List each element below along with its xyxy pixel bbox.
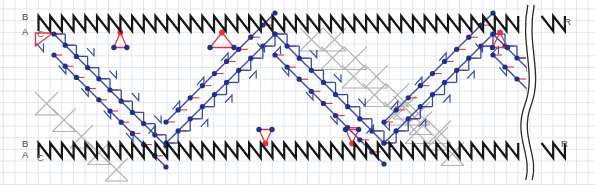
figure-strip-billiard: B A C B A C R R: [0, 0, 595, 185]
label-c-bottom: C: [37, 153, 44, 163]
label-b-top: B: [22, 12, 28, 22]
label-r-top: R: [564, 17, 571, 27]
label-a-bottom: A: [22, 150, 28, 160]
label-r-bottom: R: [561, 139, 568, 149]
diagram-canvas: [0, 0, 595, 185]
label-a-top: A: [22, 27, 28, 37]
break-lines: [521, 5, 536, 180]
sawtooth-walls: [39, 16, 565, 158]
bounce-motifs: [111, 30, 510, 147]
label-c-top: C: [37, 29, 44, 39]
label-b-bottom: B: [22, 139, 28, 149]
